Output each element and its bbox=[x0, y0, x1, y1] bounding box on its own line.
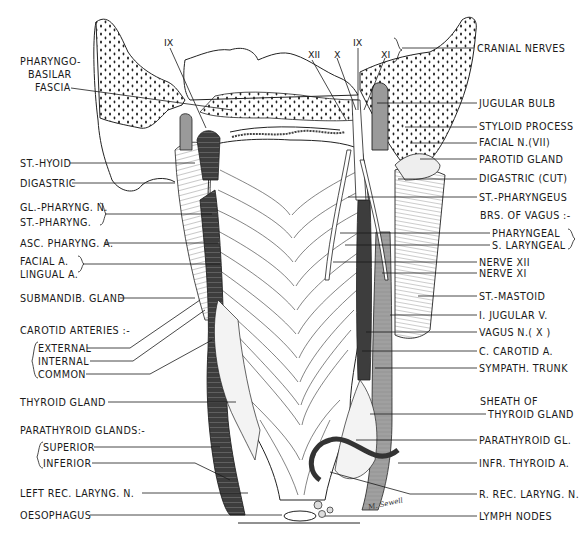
label-left-rec-laryng-n: LEFT REC. LARYNG. N. bbox=[20, 488, 134, 499]
label-s-laryngeal: S. LARYNGEAL bbox=[492, 240, 566, 251]
label-cranial-nerves: CRANIAL NERVES bbox=[477, 43, 565, 54]
label-parotid-gland: PAROTID GLAND bbox=[479, 154, 563, 165]
label-gl-pharyng-n: GL.-PHARYNG. N. bbox=[20, 202, 108, 213]
label-nerve-xi: NERVE XI bbox=[479, 268, 527, 279]
nerve-xi-label: XI bbox=[381, 49, 390, 60]
label-parathyroid-gl: PARATHYROID GL. bbox=[479, 435, 571, 446]
anatomical-diagram: IX XII X IX XI PHARYNGO- BASILAR FASCIA … bbox=[0, 0, 588, 539]
label-st-mastoid: ST.-MASTOID bbox=[479, 291, 545, 302]
label-c-carotid-a: C. CAROTID A. bbox=[479, 346, 553, 357]
label-r-rec-laryng-n: R. REC. LARYNG. N. bbox=[479, 489, 579, 500]
label-facial-n-vii: FACIAL N.(VII) bbox=[479, 137, 550, 148]
right-jugular-bulb bbox=[372, 83, 388, 150]
right-common-carotid bbox=[357, 200, 372, 380]
label-thyroid-gland-sheath: THYROID GLAND bbox=[488, 409, 574, 420]
label-pharyngo-basilar-2: BASILAR bbox=[28, 69, 72, 80]
label-lymph-nodes: LYMPH NODES bbox=[479, 511, 552, 522]
label-superior: SUPERIOR bbox=[43, 442, 95, 453]
nerve-ix-left-label: IX bbox=[164, 37, 173, 48]
label-digastric: DIGASTRIC bbox=[20, 178, 76, 189]
label-i-jugular-v: I. JUGULAR V. bbox=[479, 310, 548, 321]
label-st-pharyng: ST.-PHARYNG. bbox=[20, 217, 91, 228]
label-thyroid-gland: THYROID GLAND bbox=[20, 397, 106, 408]
label-lingual-a: LINGUAL A. bbox=[20, 269, 78, 280]
nerve-ix-right-label: IX bbox=[353, 37, 362, 48]
label-internal: INTERNAL bbox=[38, 356, 89, 367]
label-styloid-process: STYLOID PROCESS bbox=[479, 121, 574, 132]
nerve-xii-label: XII bbox=[308, 49, 320, 60]
label-brs-of-vagus: BRS. OF VAGUS :- bbox=[480, 210, 571, 221]
label-digastric-cut: DIGASTRIC (CUT) bbox=[479, 173, 567, 184]
label-jugular-bulb: JUGULAR BULB bbox=[479, 98, 555, 109]
label-pharyngeal: PHARYNGEAL bbox=[492, 228, 560, 239]
label-asc-pharyng-a: ASC. PHARYNG. A. bbox=[20, 238, 113, 249]
label-inferior: INFERIOR bbox=[43, 458, 92, 469]
label-infr-thyroid-a: INFR. THYROID A. bbox=[479, 458, 569, 469]
label-st-hyoid: ST.-HYOID bbox=[20, 158, 71, 169]
label-pharyngo-basilar-1: PHARYNGO- bbox=[20, 56, 81, 67]
label-facial-a: FACIAL A. bbox=[20, 256, 69, 267]
label-sympath-trunk: SYMPATH. TRUNK bbox=[479, 363, 568, 374]
oesophagus-opening bbox=[284, 511, 316, 521]
label-carotid-arteries: CAROTID ARTERIES :- bbox=[20, 325, 130, 336]
left-jugular-bulb bbox=[180, 114, 192, 150]
label-common: COMMON bbox=[38, 369, 86, 380]
label-vagus-n-x: VAGUS N.( X ) bbox=[479, 327, 551, 338]
label-sheath-of: SHEATH OF bbox=[480, 396, 538, 407]
label-oesophagus: OESOPHAGUS bbox=[20, 510, 91, 521]
lymph-nodes bbox=[314, 501, 333, 518]
label-parathyroid-glands: PARATHYROID GLANDS:- bbox=[20, 425, 145, 436]
label-pharyngo-basilar-3: FASCIA bbox=[35, 82, 71, 93]
label-external: EXTERNAL bbox=[38, 343, 91, 354]
skull-base-center bbox=[184, 48, 358, 137]
label-submandib-gland: SUBMANDIB. GLAND bbox=[20, 293, 125, 304]
label-st-pharyngeus: ST.-PHARYNGEUS bbox=[479, 192, 567, 203]
label-nerve-xii: NERVE XII bbox=[479, 257, 530, 268]
nerve-x-label: X bbox=[334, 49, 341, 60]
sternomastoid-muscle bbox=[395, 168, 445, 339]
